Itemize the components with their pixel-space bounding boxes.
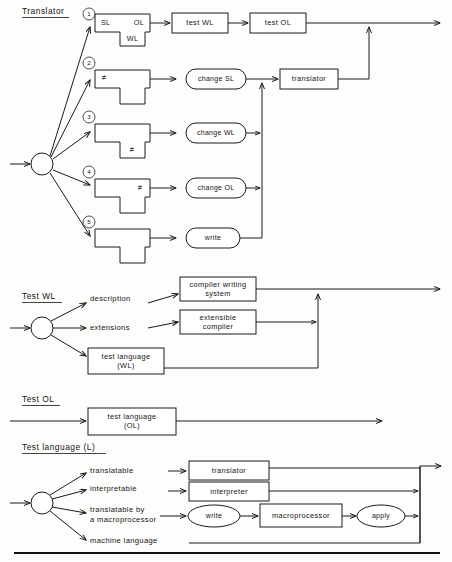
box-test-language-wl-line2: (WL) bbox=[117, 361, 134, 370]
box-test-language-ol-line2: (OL) bbox=[124, 421, 140, 430]
box-test-wl-label: test WL bbox=[186, 18, 214, 27]
section-heading-test-language: Test language (L) bbox=[22, 442, 95, 452]
tbox-5 bbox=[95, 229, 150, 263]
tbox1-stem-label: WL bbox=[127, 34, 138, 43]
section-heading-test-wl: Test WL bbox=[22, 291, 56, 301]
branch-number-4: 4 bbox=[87, 168, 91, 175]
box-cws-line1: compiler writing bbox=[190, 280, 247, 289]
test-language-label-macro-line2: a macroprocessor bbox=[90, 515, 156, 524]
action-change-wl-label: change WL bbox=[197, 129, 235, 137]
branch-number-5: 5 bbox=[87, 218, 91, 225]
test-wl-fanout-node bbox=[31, 317, 53, 339]
test-language-label-machine: machine language bbox=[90, 536, 158, 545]
test-wl-arrow-test-language bbox=[51, 335, 86, 356]
test-language-arrow-machine bbox=[50, 511, 86, 540]
test-wl-label-extensions: extensions bbox=[90, 323, 130, 332]
action-write-bottom-label: write bbox=[205, 512, 222, 519]
tbox4-neq-marker: ≠ bbox=[138, 183, 143, 192]
test-language-label-translatable: translatable bbox=[90, 466, 133, 475]
box-macroprocessor-label: macroprocessor bbox=[272, 511, 330, 520]
action-change-ol-label: change OL bbox=[198, 184, 235, 192]
test-language-fanout-node bbox=[31, 492, 53, 514]
tbox-3 bbox=[95, 124, 150, 158]
box-extensible-line2: compiler bbox=[203, 322, 234, 331]
section-heading-translator: Translator bbox=[22, 6, 64, 16]
diagram-page: Translator 1 SL OL WL test WL test OL 2 … bbox=[0, 0, 452, 562]
test-language-label-macro-line1: translatable by bbox=[90, 505, 145, 514]
test-wl-arrow-description bbox=[51, 303, 86, 321]
box-interpreter-label: interpreter bbox=[210, 487, 248, 496]
section-heading-test-ol: Test OL bbox=[22, 394, 54, 404]
action-change-sl-label: change SL bbox=[198, 75, 234, 83]
box-test-ol-label: test OL bbox=[265, 18, 291, 27]
section-test-language: Test language (L) translatable translato… bbox=[10, 442, 441, 545]
box-test-language-ol-line1: test language bbox=[108, 412, 157, 421]
test-language-arrow-macroprocessor bbox=[52, 507, 86, 513]
box-translator-label: translator bbox=[292, 74, 326, 83]
test-language-label-interpretable: interpretable bbox=[90, 484, 137, 493]
tbox1-left-label: SL bbox=[101, 18, 110, 27]
section-translator: Translator 1 SL OL WL test WL test OL 2 … bbox=[10, 6, 440, 263]
translator-fanout-node bbox=[31, 153, 53, 175]
branch-number-2: 2 bbox=[87, 59, 91, 66]
section-test-ol: Test OL test language (OL) bbox=[10, 394, 382, 435]
box-cws-line2: system bbox=[205, 289, 231, 298]
section-test-wl: Test WL description extensions compiler … bbox=[10, 277, 440, 374]
conn-extensions-to-extensible bbox=[148, 322, 178, 328]
tbox3-neq-marker: ≠ bbox=[130, 145, 135, 154]
test-wl-label-description: description bbox=[90, 294, 131, 303]
tbox2-neq-marker: ≠ bbox=[102, 73, 107, 82]
tbox1-right-label: OL bbox=[134, 18, 144, 27]
box-test-language-wl-line1: test language bbox=[102, 352, 151, 361]
test-language-arrow-interpretable bbox=[52, 490, 86, 499]
fanout-arrow-3 bbox=[53, 132, 90, 159]
flowchart-canvas: Translator 1 SL OL WL test WL test OL 2 … bbox=[0, 0, 452, 562]
branch-number-1: 1 bbox=[87, 10, 91, 17]
box-translator-bottom-label: translator bbox=[212, 466, 246, 475]
action-write-label: write bbox=[204, 234, 221, 241]
conn-description-to-cws bbox=[148, 294, 178, 303]
action-apply-label: apply bbox=[372, 512, 390, 520]
translator-feedback-path bbox=[338, 27, 369, 79]
box-extensible-line1: extensible bbox=[200, 313, 237, 322]
branch-number-3: 3 bbox=[87, 113, 91, 120]
